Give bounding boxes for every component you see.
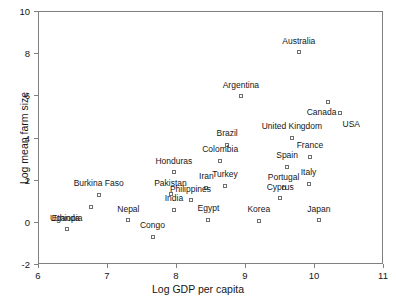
x-axis-tick-label: 6 [35, 270, 40, 281]
data-point-label: Honduras [155, 156, 192, 166]
data-point-label: USA [343, 119, 360, 129]
data-point [297, 50, 301, 54]
data-point [257, 219, 261, 223]
x-axis-tick [176, 264, 177, 268]
data-point-label: Colombia [202, 144, 238, 154]
x-axis-tick-label: 7 [104, 270, 109, 281]
x-axis-tick [107, 264, 108, 268]
data-point-label: Congo [140, 220, 165, 230]
data-point [97, 193, 101, 197]
data-point-label: Ethiopia [52, 213, 83, 223]
data-point [338, 111, 342, 115]
x-axis-tick [38, 264, 39, 268]
data-point-label: Nepal [117, 204, 139, 214]
data-point-label: Spain [276, 150, 298, 160]
data-point [278, 196, 282, 200]
x-axis-tick-label: 8 [173, 270, 178, 281]
y-axis-tick [34, 138, 38, 139]
data-point-label: Korea [247, 204, 270, 214]
data-point-label: Canada [307, 107, 337, 117]
data-point-label: Japan [307, 204, 330, 214]
y-axis-tick-label: 10 [0, 6, 30, 17]
data-point-label: Australia [282, 36, 315, 46]
y-axis-tick [34, 53, 38, 54]
y-axis-tick [34, 264, 38, 265]
data-point [65, 227, 69, 231]
y-axis-tick [34, 11, 38, 12]
data-point [307, 182, 311, 186]
data-point-label: Portugal [268, 172, 300, 182]
data-point-label: Turkey [212, 169, 238, 179]
data-point [317, 218, 321, 222]
data-point [285, 165, 289, 169]
data-point-label: Argentina [223, 80, 259, 90]
x-axis-title: Log GDP per capita [0, 283, 396, 295]
data-point-label: Egypt [198, 203, 220, 213]
data-point [172, 170, 176, 174]
data-point-label: Burkina Faso [74, 178, 124, 188]
data-point [218, 159, 222, 163]
data-point-label: United Kingdom [262, 121, 322, 131]
x-axis-tick [383, 264, 384, 268]
data-point-label: Brazil [216, 128, 237, 138]
plot-area [38, 11, 383, 264]
data-point [223, 184, 227, 188]
data-point [290, 136, 294, 140]
data-point-label: France [297, 140, 323, 150]
x-axis-tick-label: 9 [242, 270, 247, 281]
data-point [206, 218, 210, 222]
x-axis-tick-label: 11 [378, 270, 388, 281]
y-axis-tick-label: -2 [0, 259, 30, 270]
x-axis-tick [245, 264, 246, 268]
y-axis-tick [34, 222, 38, 223]
data-point-label: Italy [301, 167, 317, 177]
data-point [126, 218, 130, 222]
x-axis-tick [314, 264, 315, 268]
data-point-label: India [165, 193, 183, 203]
data-point [308, 155, 312, 159]
y-axis-title: Log mean farm size [18, 58, 30, 218]
y-axis-tick [34, 95, 38, 96]
data-point [326, 100, 330, 104]
data-point [151, 235, 155, 239]
x-axis-tick-label: 10 [309, 270, 320, 281]
data-point [172, 208, 176, 212]
scatter-chart-figure: AustraliaArgentinaCanadaUSABrazilUnited … [0, 0, 396, 303]
y-axis-tick [34, 180, 38, 181]
data-point-label: Cyprus [267, 182, 294, 192]
data-point [239, 94, 243, 98]
data-point [89, 205, 93, 209]
data-point [189, 198, 193, 202]
data-point-label: Iran [199, 171, 214, 181]
